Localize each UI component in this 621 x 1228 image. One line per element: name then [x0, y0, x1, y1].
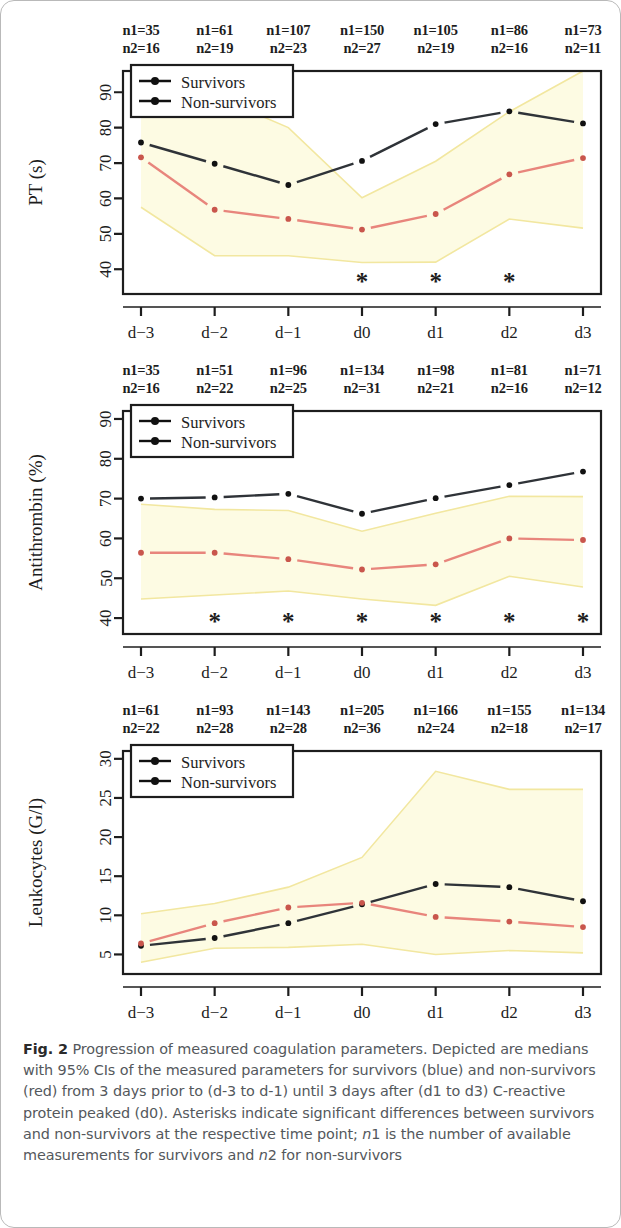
x-tick-label: d−3	[128, 1003, 155, 1022]
data-point	[138, 140, 144, 146]
n2-label: n2=25	[270, 380, 307, 396]
significance-asterisk: *	[429, 268, 442, 295]
n2-label: n2=24	[417, 720, 454, 736]
significance-asterisk: *	[356, 268, 369, 295]
chart-legend: SurvivorsNon-survivors	[131, 65, 293, 117]
figure-caption: Fig. 2 Progression of measured coagulati…	[23, 1039, 602, 1166]
n1-label: n1=134	[561, 702, 605, 718]
y-tick-label: 40	[97, 261, 116, 278]
legend-label: Non-survivors	[181, 93, 276, 112]
n1-label: n1=71	[564, 362, 601, 378]
n1-label: n1=61	[196, 22, 233, 38]
legend-marker-dot	[151, 437, 159, 445]
n1-label: n1=81	[491, 362, 528, 378]
data-point	[285, 920, 291, 926]
x-tick-label: d−1	[275, 663, 302, 682]
data-point	[138, 496, 144, 502]
series-segment	[297, 496, 353, 511]
data-point	[580, 898, 586, 904]
x-tick-label: d3	[575, 663, 592, 682]
y-tick-label: 5	[97, 950, 116, 959]
n1-label: n1=98	[417, 362, 454, 378]
x-tick-label: d−3	[128, 323, 155, 342]
n1-label: n1=150	[340, 22, 384, 38]
significance-asterisk: *	[503, 268, 516, 295]
legend-marker-dot	[151, 757, 159, 765]
n1-label: n1=61	[122, 702, 159, 718]
y-axis-title: Antithrombin (%)	[25, 454, 47, 591]
x-tick-label: d−2	[201, 663, 228, 682]
data-point	[212, 920, 218, 926]
significance-asterisk: *	[282, 608, 295, 635]
caption-var-n1: n	[362, 1126, 371, 1142]
data-point	[138, 941, 144, 947]
n1-label: n1=107	[266, 22, 310, 38]
y-tick-label: 10	[97, 907, 116, 924]
legend-label: Survivors	[181, 753, 245, 772]
y-tick-label: 30	[97, 750, 116, 767]
data-point	[285, 491, 291, 497]
significance-markers: ******	[208, 608, 589, 635]
series-segment	[445, 487, 501, 497]
data-point	[212, 161, 218, 167]
n1-label: n1=134	[340, 362, 384, 378]
y-tick-label: 70	[97, 155, 116, 172]
x-tick-label: d3	[575, 1003, 592, 1022]
n1-label: n1=35	[122, 362, 159, 378]
n2-label: n2=23	[270, 40, 307, 56]
data-point	[580, 155, 586, 161]
data-point	[359, 511, 365, 517]
x-tick-label: d−1	[275, 323, 302, 342]
sample-size-header: n1=61n2=22n1=93n2=28n1=143n2=28n1=205n2=…	[122, 702, 605, 736]
chart-panel-1: n1=35n2=16n1=61n2=19n1=107n2=23n1=150n2=…	[1, 5, 621, 345]
chart-panel-2: n1=35n2=16n1=51n2=22n1=96n2=25n1=134n2=3…	[1, 345, 621, 685]
significance-asterisk: *	[356, 608, 369, 635]
chart-legend: SurvivorsNon-survivors	[131, 405, 293, 457]
n2-label: n2=22	[196, 380, 233, 396]
n1-label: n1=166	[414, 702, 458, 718]
x-tick-label: d−2	[201, 1003, 228, 1022]
y-tick-label: 90	[97, 410, 116, 427]
data-point	[506, 482, 512, 488]
data-point	[506, 536, 512, 542]
data-point	[212, 935, 218, 941]
y-tick-label: 60	[97, 190, 116, 207]
data-point	[580, 120, 586, 126]
figure-label: Fig. 2	[23, 1041, 68, 1057]
chart-panel-3: n1=61n2=22n1=93n2=28n1=143n2=28n1=205n2=…	[1, 685, 621, 1025]
significance-asterisk: *	[577, 608, 590, 635]
x-tick-label: d1	[427, 663, 444, 682]
y-tick-label: 80	[97, 450, 116, 467]
series-segment	[518, 473, 574, 483]
x-tick-label: d−1	[275, 1003, 302, 1022]
chart-legend: SurvivorsNon-survivors	[131, 745, 293, 797]
x-tick-label: d0	[354, 663, 371, 682]
data-point	[433, 561, 439, 567]
ci-band	[141, 771, 583, 962]
sample-size-header: n1=35n2=16n1=51n2=22n1=96n2=25n1=134n2=3…	[122, 362, 601, 396]
data-point	[285, 216, 291, 222]
n1-label: n1=86	[491, 22, 528, 38]
chart-panels: n1=35n2=16n1=61n2=19n1=107n2=23n1=150n2=…	[1, 5, 621, 1025]
data-point	[138, 550, 144, 556]
y-tick-label: 80	[97, 119, 116, 136]
n2-label: n2=18	[491, 720, 528, 736]
y-tick-label: 15	[97, 868, 116, 885]
legend-marker-dot	[151, 97, 159, 105]
n2-label: n2=22	[122, 720, 159, 736]
data-point	[359, 227, 365, 233]
data-point	[580, 537, 586, 543]
y-tick-label: 90	[97, 84, 116, 101]
y-tick-label: 60	[97, 530, 116, 547]
n2-label: n2=17	[564, 720, 601, 736]
data-point	[506, 171, 512, 177]
data-point	[433, 121, 439, 127]
y-tick-label: 70	[97, 490, 116, 507]
legend-marker-dot	[151, 77, 159, 85]
n1-label: n1=35	[122, 22, 159, 38]
data-point	[433, 914, 439, 920]
series-segment	[150, 498, 206, 499]
n2-label: n2=16	[122, 380, 159, 396]
y-axis-title: PT (s)	[25, 159, 47, 206]
n1-label: n1=96	[270, 362, 307, 378]
